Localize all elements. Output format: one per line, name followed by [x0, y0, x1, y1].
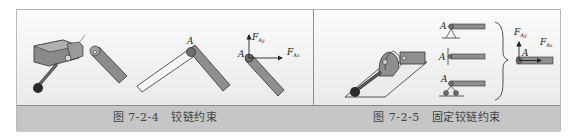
support-symbols: A A A	[438, 21, 485, 96]
free-body-diagram: A FAy FAx	[237, 32, 300, 96]
support-label-a2: A	[438, 52, 446, 62]
figure-title: 固定铰链约束	[432, 111, 501, 124]
pin-label-a: A	[186, 36, 194, 46]
force-ay-label: FAy	[513, 27, 527, 39]
pin-label-a: A	[521, 48, 529, 58]
force-ax-label: FAx	[539, 37, 553, 48]
support-label-a1: A	[439, 21, 447, 31]
figure-number: 图 7-2-4	[113, 111, 159, 124]
force-ax-label: FAx	[286, 47, 300, 58]
fixed-hinge-illustration	[345, 51, 427, 97]
equivalent-free-body: A FAy FAx	[513, 27, 553, 64]
pin-label-a: A	[237, 49, 245, 59]
caption-fig-7-2-4: 图 7-2-4铰链约束	[17, 108, 313, 124]
link-member-illustration	[90, 46, 127, 83]
hinge-block-illustration	[33, 35, 85, 93]
equivalence-brace	[495, 22, 508, 100]
support-label-a3: A	[440, 74, 448, 84]
figure-frame: 图 7-2-4铰链约束 图 7-2-5固定铰链约束	[16, 9, 561, 131]
figure-title: 铰链约束	[171, 111, 217, 124]
caption-fig-7-2-5: 图 7-2-5固定铰链约束	[314, 108, 560, 124]
figure-illustrations: A A FAy FAx	[17, 10, 562, 105]
hinged-bars-illustration: A	[137, 36, 230, 92]
force-ay-label: FAy	[251, 32, 265, 44]
figure-number: 图 7-2-5	[373, 111, 419, 124]
